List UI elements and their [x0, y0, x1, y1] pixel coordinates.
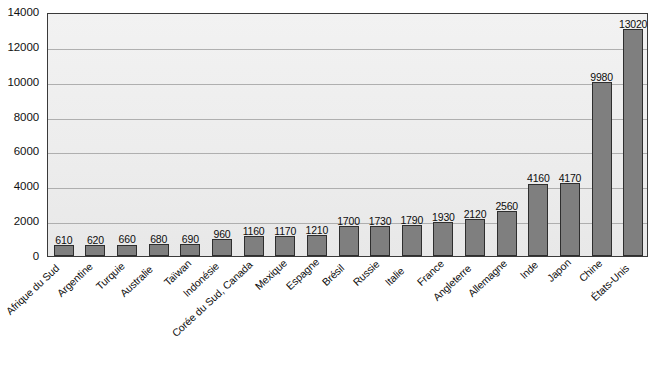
bar	[339, 226, 359, 256]
x-category-label: Japon	[545, 257, 573, 284]
bar	[117, 245, 137, 257]
x-category-label: Argentine	[55, 261, 94, 299]
bars-layer: 6106206606806909601160117012101700173017…	[48, 14, 647, 256]
bar	[275, 236, 295, 256]
bar	[433, 222, 453, 256]
bar	[244, 236, 264, 256]
x-category-label: Afrique du Sud	[4, 263, 61, 317]
bar	[85, 245, 105, 256]
x-axis-category-labels: Afrique du SudArgentineTurquieAustralieT…	[0, 258, 664, 370]
bar-value-label: 2560	[485, 201, 529, 212]
bar	[402, 225, 422, 256]
bar	[592, 82, 612, 256]
bar	[180, 244, 200, 256]
x-category-label: Mexique	[253, 257, 289, 291]
bar	[623, 29, 643, 256]
x-category-label: Chine	[577, 258, 604, 284]
bar	[307, 235, 327, 256]
y-tick-label: 10000	[0, 77, 44, 89]
bar-value-label: 4170	[548, 173, 592, 184]
y-tick-label: 14000	[0, 7, 44, 19]
plot-area: 6106206606806909601160117012101700173017…	[47, 13, 648, 257]
bar-value-label: 9980	[580, 72, 624, 83]
y-tick-label: 6000	[0, 147, 44, 159]
y-tick-label: 12000	[0, 42, 44, 54]
y-tick-label: 2000	[0, 216, 44, 228]
x-category-label: Russie	[351, 259, 381, 288]
bar	[54, 245, 74, 256]
bar	[497, 211, 517, 256]
bar	[212, 239, 232, 256]
x-category-label: Inde	[518, 259, 540, 280]
x-category-label: Allemagne	[466, 258, 509, 299]
bar	[465, 219, 485, 256]
x-category-label: Brésil	[320, 263, 346, 288]
bar	[528, 184, 548, 257]
x-category-label: Espagne	[284, 256, 321, 291]
y-tick-label: 4000	[0, 182, 44, 194]
bar-value-label: 13020	[611, 19, 648, 30]
y-tick-label: 8000	[0, 112, 44, 124]
x-category-label: Italie	[383, 265, 406, 287]
bar-chart: 02000400060008000100001200014000 6106206…	[0, 0, 664, 370]
bar	[149, 244, 169, 256]
bar	[560, 183, 580, 256]
bar	[370, 226, 390, 256]
